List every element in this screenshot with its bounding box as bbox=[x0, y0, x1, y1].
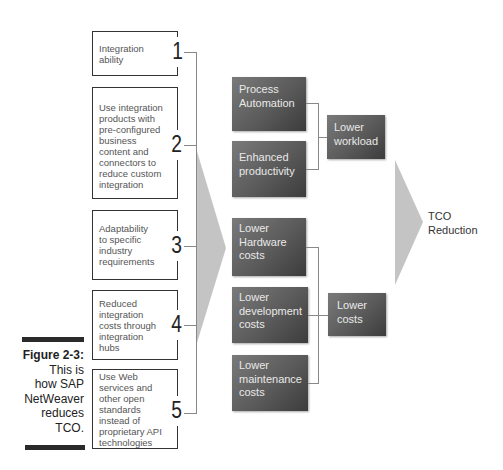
connector-bracket bbox=[306, 247, 318, 248]
caption-line: how SAP bbox=[23, 377, 84, 392]
factor-text: Use Web services and other open standard… bbox=[99, 370, 171, 448]
factor-box-5: Use Web services and other open standard… bbox=[92, 369, 178, 449]
result-label: TCO Reduction bbox=[428, 210, 472, 237]
factor-text: Adaptability to specific industry requir… bbox=[99, 211, 157, 279]
factor-box-3: Adaptability to specific industry requir… bbox=[92, 210, 178, 280]
connector-stub-5 bbox=[184, 413, 196, 414]
factor-number-2: 2 bbox=[171, 130, 182, 158]
outcome-box-lower-costs: Lower costs bbox=[328, 293, 386, 336]
connector-stub-1 bbox=[184, 52, 196, 53]
connector-bracket bbox=[308, 315, 318, 316]
benefit-box-lower-development: Lower development costs bbox=[232, 287, 308, 343]
figure-caption: Figure 2-3: This is how SAP NetWeaver re… bbox=[23, 348, 84, 435]
connector-bracket bbox=[308, 383, 318, 384]
factor-number-1: 1 bbox=[172, 37, 183, 65]
connector-stub-2 bbox=[184, 145, 196, 146]
connector-stub-4 bbox=[184, 325, 196, 326]
connector-stub-3 bbox=[184, 246, 196, 247]
caption-top-bar bbox=[22, 337, 84, 342]
factor-box-1: Integration ability bbox=[92, 31, 178, 76]
factor-number-4: 4 bbox=[171, 310, 182, 338]
benefit-box-lower-maintenance: Lower maintenance costs bbox=[232, 355, 308, 411]
figure-label: Figure 2-3: bbox=[23, 348, 84, 363]
caption-line: This is bbox=[23, 363, 84, 378]
factor-text: Use integration products with pre-config… bbox=[99, 102, 169, 198]
factor-box-4: Reduced integration costs through integr… bbox=[92, 290, 178, 360]
caption-line: reduces bbox=[23, 406, 84, 421]
connector-bracket bbox=[306, 169, 318, 170]
benefit-box-process-automation: Process Automation bbox=[232, 77, 306, 131]
factor-text: Integration ability bbox=[99, 32, 169, 75]
connector-bracket bbox=[318, 315, 328, 316]
benefit-box-enhanced-productivity: Enhanced productivity bbox=[232, 141, 306, 197]
caption-line: NetWeaver bbox=[23, 392, 84, 407]
connector-vertical bbox=[196, 52, 197, 414]
factor-text: Reduced integration costs through integr… bbox=[99, 291, 161, 359]
factor-number-5: 5 bbox=[171, 396, 182, 424]
outcome-box-lower-workload: Lower workload bbox=[327, 115, 385, 159]
connector-bracket bbox=[306, 103, 318, 104]
chevron-arrow-icon bbox=[395, 160, 427, 286]
benefit-box-lower-hardware: Lower Hardware costs bbox=[232, 218, 306, 276]
factor-box-2: Use integration products with pre-config… bbox=[92, 87, 178, 199]
chevron-arrow-icon bbox=[196, 148, 228, 348]
caption-line: TCO. bbox=[23, 421, 84, 436]
caption-bottom-bar bbox=[25, 445, 85, 450]
factor-number-3: 3 bbox=[171, 231, 182, 259]
